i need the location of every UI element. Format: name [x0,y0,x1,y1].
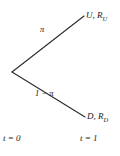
down-node-label-subscript: D [104,116,109,123]
up-node-label-subscript: U [103,15,108,22]
down-branch-probability-label: 1 − π [35,89,54,98]
binomial-tree-diagram: π 1 − π U, RU D, RD t = 0 t = 1 [0,0,120,156]
down-node-label: D, RD [87,112,108,123]
up-node-label: U, RU [86,11,107,22]
up-branch-line [12,16,84,72]
up-node-label-text: U, R [86,10,103,20]
time-axis-end-label: t = 1 [80,134,98,143]
time-axis-start-label: t = 0 [3,134,21,143]
down-node-label-text: D, R [87,111,104,121]
up-branch-probability-label: π [40,25,44,34]
